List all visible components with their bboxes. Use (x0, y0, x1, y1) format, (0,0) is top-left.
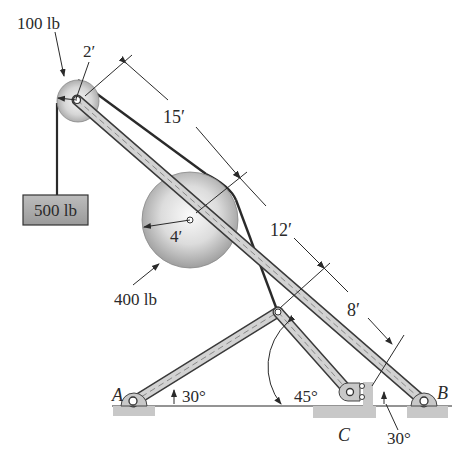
label-angle-b: 30° (387, 429, 411, 448)
label-c: C (338, 425, 351, 445)
hanging-block: 500 lb (23, 195, 88, 225)
ground-hatch-a (113, 406, 155, 416)
label-4ft: 4′ (170, 227, 182, 246)
support-c (339, 383, 365, 401)
arrow-400lb (133, 264, 159, 285)
ground-hatch-c (313, 406, 376, 418)
label-400lb: 400 lb (114, 290, 157, 309)
label-a: A (111, 385, 124, 405)
ground-hatch-b (407, 406, 448, 418)
label-2ft: 2′ (83, 42, 95, 61)
statics-diagram: 500 lb (0, 0, 469, 459)
arrow-100lb (55, 32, 64, 76)
label-12ft: 12′ (270, 220, 292, 240)
label-angle-a: 30° (182, 387, 206, 406)
label-100lb: 100 lb (17, 14, 60, 33)
label-15ft: 15′ (163, 107, 185, 127)
label-angle-45: 45° (294, 387, 318, 406)
member-main-diagonal (77, 100, 424, 402)
block-weight-label: 500 lb (34, 201, 77, 220)
label-b: B (437, 383, 448, 403)
pin-junction (275, 309, 281, 315)
label-8ft: 8′ (347, 300, 360, 320)
